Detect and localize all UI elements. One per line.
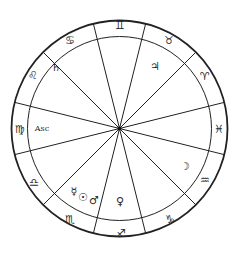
aquarius-sign-icon: ♒ [200, 174, 210, 187]
house-cusp-line-12 [120, 129, 225, 155]
sagittarius-sign-icon: ♐ [116, 227, 126, 240]
house-cusp-line-10 [120, 129, 146, 234]
virgo-sign-icon: ♍ [15, 123, 25, 136]
taurus-sign-icon: ♉ [164, 34, 174, 47]
saturn-icon: ♄ [51, 61, 61, 74]
sun-icon: ☉ [78, 191, 88, 204]
mars-icon: ♂ [89, 194, 99, 207]
moon-icon: ☽ [180, 160, 190, 173]
house-cusp-line-4 [93, 24, 119, 129]
house-cusp-line-6 [15, 102, 120, 128]
venus-icon: ♀ [116, 195, 124, 208]
astrology-chart: ♊♋♌♍♎♏♐♑♒♓♈♉ ♄♃Asc☽☿☉♂♀ [0, 0, 238, 253]
scorpio-sign-icon: ♏ [65, 213, 75, 226]
libra-sign-icon: ♎ [29, 176, 39, 189]
cancer-sign-icon: ♋ [65, 34, 75, 47]
leo-sign-icon: ♌ [28, 69, 38, 82]
house-cusp-line-3 [120, 24, 146, 129]
capricorn-sign-icon: ♑ [165, 213, 175, 226]
jupiter-icon: ♃ [150, 60, 160, 73]
house-cusp-line-1 [120, 102, 225, 128]
house-cusp-line-7 [15, 129, 120, 155]
ascendant-label: Asc [34, 124, 50, 133]
aries-sign-icon: ♈ [200, 70, 210, 83]
pisces-sign-icon: ♓ [214, 123, 224, 136]
house-cusp-line-9 [93, 129, 119, 234]
gemini-sign-icon: ♊ [115, 19, 125, 32]
mercury-icon: ☿ [71, 185, 78, 198]
center-hub [118, 127, 122, 131]
